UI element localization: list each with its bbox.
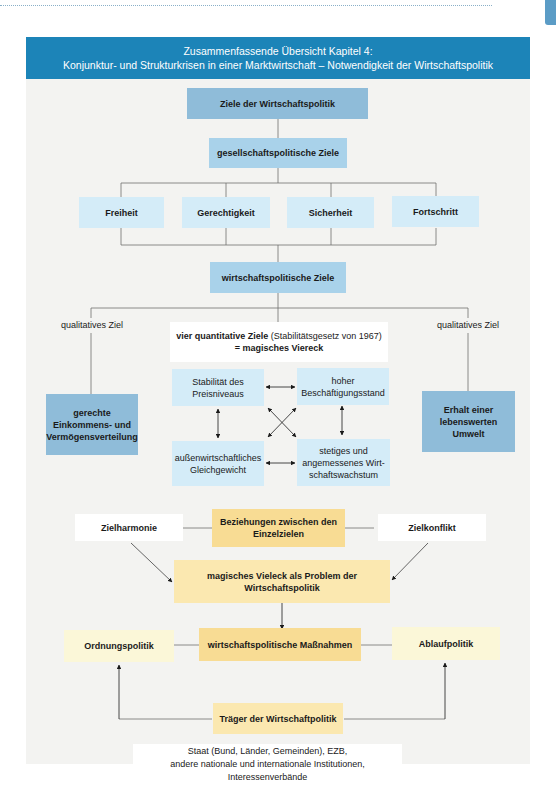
societal-item-fortschritt: Fortschritt [392,196,479,227]
goal-text: Umwelt [452,428,484,440]
goal-text: außenwirtschaftliches [175,452,262,464]
goal-harmony-box: Zielharmonie [75,514,183,541]
societal-item-sicherheit: Sicherheit [287,197,374,228]
goal-text: gerechte [73,407,111,419]
quantitative-title: vier quantitative Ziele [176,331,268,341]
societal-item-freiheit: Freiheit [79,197,164,228]
magic-polygon-problem-box: magisches Vieleck als Problem der Wirtsc… [174,560,390,603]
goal-price-stability: Stabilität des Preisniveaus [172,369,264,406]
goal-relations-box: Beziehungen zwischen den Einzelzielen [212,509,345,547]
goal-fair-distribution-box: gerechte Einkommens- und Vermögensvertei… [46,394,138,455]
goal-text: hoher [331,375,354,387]
economic-measures-box: wirtschaftspolitische Maßnahmen [199,628,361,661]
actors-list-text: andere nationale und internationale Inst… [133,758,402,784]
societal-item-gerechtigkeit: Gerechtigkeit [182,197,270,228]
actors-list-text: Staat (Bund, Länder, Gemeinden), EZB, [188,745,348,758]
root-goal-box: Ziele der Wirtschaftspolitik [187,88,368,119]
policy-actors-list-box: Staat (Bund, Länder, Gemeinden), EZB, an… [133,744,402,784]
quantitative-goals-box: vier quantitative Ziele (Stabilitätsgese… [170,322,388,362]
root-goal-label: Ziele der Wirtschaftspolitik [220,98,335,110]
goal-text: Vermögensverteilung [46,431,138,443]
goal-text: Einkommens- und [53,419,131,431]
societal-item-label: Sicherheit [309,207,353,219]
goal-conflict-box: Zielkonflikt [378,514,486,541]
goal-economic-growth: stetiges und angemessenes Wirt- schaftsw… [297,439,390,486]
economic-goals-box: wirtschaftspolitische Ziele [210,262,346,293]
goal-text: Stabilität des [192,376,244,388]
magic-square-label: = magisches Viereck [235,342,324,354]
societal-item-label: Fortschritt [413,206,458,218]
goal-text: Erhalt einer [444,404,494,416]
economic-goals-label: wirtschaftspolitische Ziele [222,272,335,284]
goal-relations-text: Beziehungen zwischen den [220,516,337,528]
goal-text: Preisniveaus [192,388,244,400]
societal-item-label: Freiheit [105,207,138,219]
problem-text: magisches Vieleck als Problem der [207,570,357,582]
goal-relations-text: Einzelzielen [253,528,304,540]
societal-item-label: Gerechtigkeit [197,207,255,219]
goal-external-equilibrium: außenwirtschaftliches Gleichgewicht [172,441,264,486]
goal-harmony-label: Zielharmonie [101,522,157,534]
economic-measures-label: wirtschaftspolitische Maßnahmen [208,639,353,651]
regulatory-policy-box: Ordnungspolitik [64,630,174,662]
process-policy-label: Ablaufpolitik [419,638,474,650]
societal-goals-label: gesellschaftspolitische Ziele [217,147,339,159]
societal-goals-box: gesellschaftspolitische Ziele [209,138,347,168]
goal-environment-box: Erhalt einer lebenswerten Umwelt [422,391,515,452]
goal-text: angemessenes Wirt- [302,457,385,469]
quantitative-note: (Stabilitätsgesetz von 1967) [271,331,382,341]
goal-text: lebenswerten [440,416,498,428]
process-policy-box: Ablaufpolitik [392,627,500,660]
left-qualitative-label: qualitatives Ziel [52,320,132,330]
right-qualitative-label: qualitatives Ziel [428,320,508,330]
goal-text: Gleichgewicht [190,464,246,476]
goal-text: Beschäftigungsstand [301,387,385,399]
regulatory-policy-label: Ordnungspolitik [84,640,154,652]
goal-high-employment: hoher Beschäftigungsstand [297,368,389,405]
goal-text: stetiges und [319,445,368,457]
problem-text: Wirtschaftspolitik [244,582,319,594]
policy-actors-box: Träger der Wirtschaftpolitik [213,703,343,734]
goal-conflict-label: Zielkonflikt [408,522,456,534]
goal-text: schaftswachstum [309,469,378,481]
policy-actors-label: Träger der Wirtschaftpolitik [220,713,337,725]
